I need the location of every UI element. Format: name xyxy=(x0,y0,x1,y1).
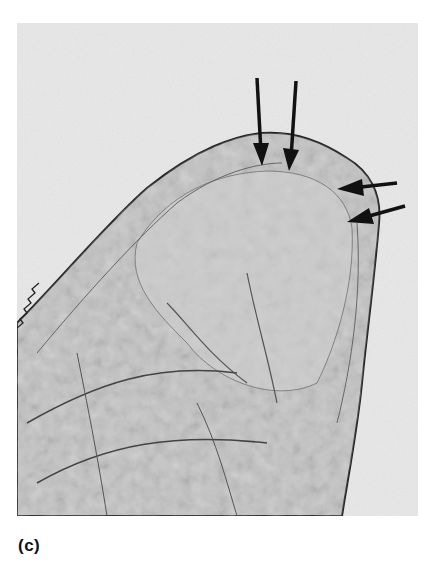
panel-label: (c) xyxy=(18,536,40,556)
nematode-head-illustration xyxy=(17,23,418,516)
micrograph-image xyxy=(17,23,418,516)
